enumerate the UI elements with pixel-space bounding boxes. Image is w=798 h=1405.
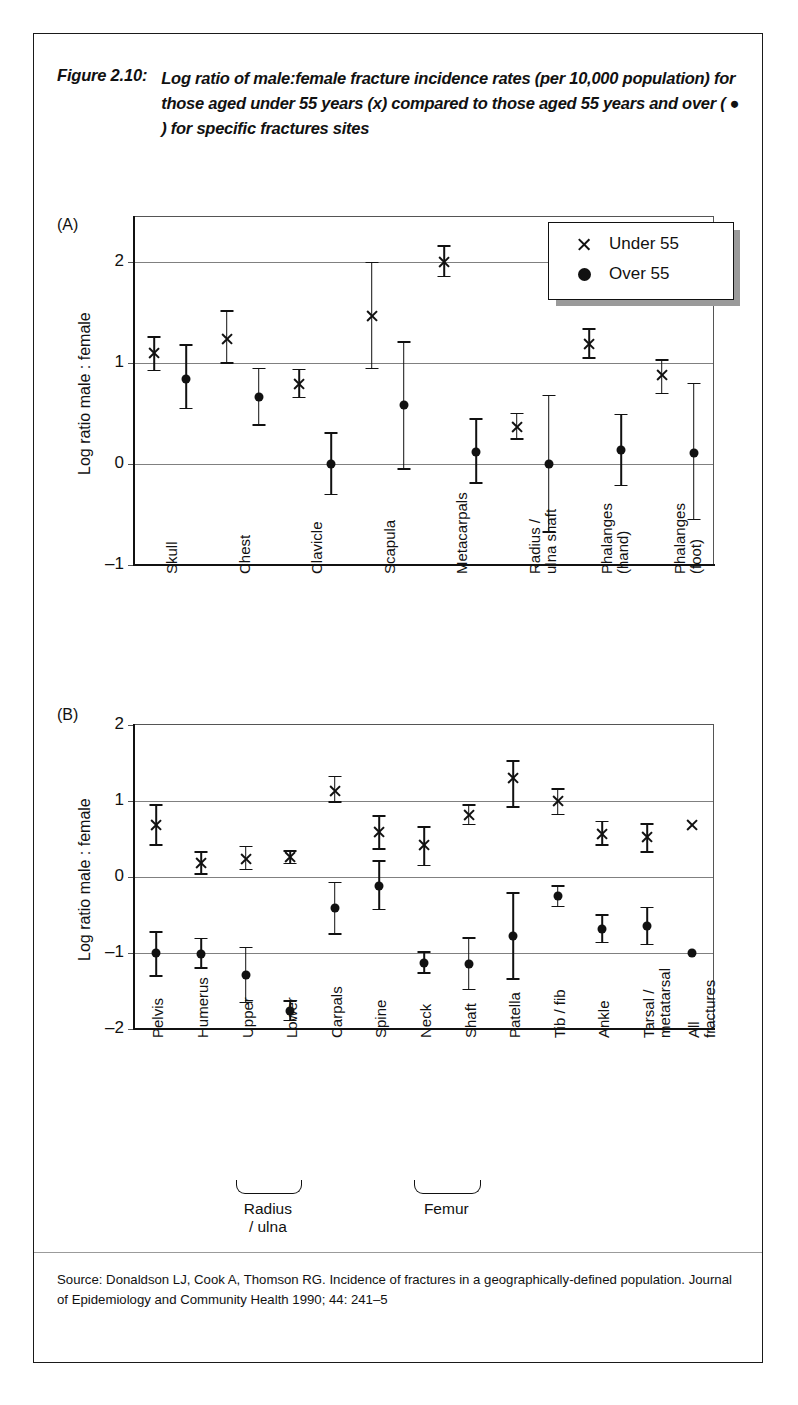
- x-axis-label: Tib / fib: [551, 989, 568, 1038]
- data-point-over-55: [182, 375, 191, 384]
- error-bar-cap: [507, 978, 520, 980]
- error-bar-cap: [583, 357, 596, 359]
- panel-a-y-axis-title: Log ratio male : female: [76, 312, 94, 475]
- data-point-over-55: [375, 882, 384, 891]
- error-bar-cap: [551, 788, 564, 790]
- error-bar-cap: [687, 383, 700, 385]
- y-tick-label: 0: [90, 866, 124, 886]
- data-point-over-55: [617, 446, 626, 455]
- error-bar-cap: [418, 951, 431, 953]
- source-note: Source: Donaldson LJ, Cook A, Thomson RG…: [57, 1270, 737, 1311]
- error-bar-cap: [462, 937, 475, 939]
- error-bar-cap: [462, 989, 475, 991]
- group-brace-label: Femur: [424, 1200, 469, 1218]
- error-bar-cap: [615, 485, 628, 487]
- data-point-over-55: [254, 392, 263, 401]
- error-bar-cap: [596, 821, 609, 823]
- error-bar-cap: [293, 397, 306, 399]
- error-bar-cap: [325, 432, 338, 434]
- x-axis-label: Neck: [417, 1004, 434, 1038]
- error-bar-cap: [551, 906, 564, 908]
- data-point-under-55: [147, 346, 161, 360]
- y-axis-line: [133, 216, 135, 565]
- data-point-under-55: [220, 332, 234, 346]
- source-separator: [34, 1252, 762, 1253]
- error-bar-cap: [507, 892, 520, 894]
- error-bar-cap: [150, 844, 163, 846]
- gridline: [134, 801, 713, 802]
- data-point-over-55: [598, 924, 607, 933]
- error-bar-cap: [148, 370, 161, 372]
- error-bar-cap: [180, 344, 193, 346]
- error-bar-cap: [583, 328, 596, 330]
- panel-b-tag: (B): [57, 706, 78, 724]
- error-bar-cap: [596, 914, 609, 916]
- error-bar-cap: [551, 814, 564, 816]
- figure-page: Figure 2.10: Log ratio of male:female fr…: [0, 0, 798, 1405]
- error-bar-cap: [655, 393, 668, 395]
- y-tick-label: –1: [90, 942, 124, 962]
- group-brace: [414, 1180, 481, 1194]
- data-point-under-55: [655, 368, 669, 382]
- error-bar-cap: [373, 909, 386, 911]
- x-axis-label: Patella: [506, 992, 523, 1038]
- x-axis-label: Ankle: [595, 1000, 612, 1038]
- error-bar-cap: [194, 938, 207, 940]
- error-bar-cap: [239, 869, 252, 871]
- page-title: Log ratio of male:female fracture incide…: [161, 66, 747, 141]
- figure-title-block: Figure 2.10: Log ratio of male:female fr…: [57, 66, 747, 141]
- error-bar-cap: [542, 395, 555, 397]
- data-point-over-55: [544, 460, 553, 469]
- x-axis-label: Upper: [239, 997, 256, 1038]
- error-bar-cap: [438, 276, 451, 278]
- error-bar-cap: [596, 942, 609, 944]
- legend-item-over-55: Over 55: [571, 264, 669, 284]
- error-bar-cap: [397, 341, 410, 343]
- error-bar-cap: [462, 804, 475, 806]
- data-point-under-55: [595, 827, 609, 841]
- data-point-over-55: [420, 958, 429, 967]
- data-point-over-55: [553, 892, 562, 901]
- error-bar-cap: [373, 815, 386, 817]
- error-bar-cap: [194, 873, 207, 875]
- error-bar-cap: [655, 359, 668, 361]
- data-point-under-55: [292, 377, 306, 391]
- error-bar-cap: [641, 944, 654, 946]
- x-axis-label: (foot): [687, 539, 704, 574]
- filled-circle-icon: [571, 268, 597, 281]
- y-tick-label: 1: [90, 790, 124, 810]
- error-bar-cap: [328, 801, 341, 803]
- y-tick-label: 1: [90, 352, 124, 372]
- error-bar-cap: [328, 882, 341, 884]
- error-bar-cap: [438, 245, 451, 247]
- error-bar-cap: [373, 848, 386, 850]
- data-point-under-55: [462, 808, 476, 822]
- error-bar-cap: [373, 860, 386, 862]
- error-bar-cap: [180, 408, 193, 410]
- error-bar-cap: [418, 826, 431, 828]
- figure-number: Figure 2.10:: [57, 66, 161, 141]
- legend-label-over-55: Over 55: [597, 264, 669, 284]
- error-bar-cap: [220, 362, 233, 364]
- error-bar-cap: [148, 336, 161, 338]
- data-point-over-55: [152, 949, 161, 958]
- error-bar-cap: [150, 975, 163, 977]
- x-axis-label: Skull: [163, 541, 180, 574]
- error-bar-cap: [194, 967, 207, 969]
- x-axis-label: Tarsal /: [640, 990, 657, 1038]
- error-bar-cap: [418, 972, 431, 974]
- error-bar-cap: [507, 760, 520, 762]
- error-bar-cap: [293, 369, 306, 371]
- legend-item-under-55: Under 55: [571, 234, 679, 254]
- x-axis-label: (hand): [614, 531, 631, 574]
- error-bar-cap: [252, 368, 265, 370]
- data-point-under-55: [365, 309, 379, 323]
- error-bar-cap: [252, 424, 265, 426]
- x-axis-label: Chest: [236, 535, 253, 574]
- gridline: [134, 877, 713, 878]
- error-bar-cap: [239, 846, 252, 848]
- data-point-over-55: [399, 400, 408, 409]
- error-bar-cap: [641, 823, 654, 825]
- error-bar-cap: [470, 418, 483, 420]
- chart-legend: Under 55 Over 55: [548, 222, 734, 300]
